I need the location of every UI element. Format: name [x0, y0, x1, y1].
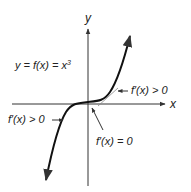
function-label-exponent: 3 — [67, 59, 71, 66]
function-label: y = f(x) = x3 — [15, 59, 71, 71]
function-label-lhs: y = f(x) = x — [15, 59, 67, 71]
y-axis-label: y — [85, 12, 91, 24]
annotation-left: f′(x) > 0 — [8, 114, 45, 125]
cubic-graph — [0, 0, 191, 192]
x-axis-label: x — [170, 98, 176, 110]
arrow-origin-annotation — [92, 108, 103, 130]
annotation-origin: f′(x) = 0 — [96, 136, 133, 147]
annotation-right: f′(x) > 0 — [131, 85, 168, 96]
tangent-line — [98, 88, 118, 106]
